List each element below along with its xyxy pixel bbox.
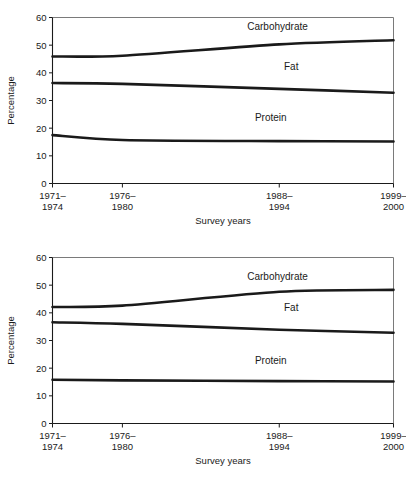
- y-tick-label: 50: [36, 40, 47, 51]
- series-label-carbohydrate: Carbohydrate: [247, 271, 308, 282]
- y-tick-label: 10: [36, 390, 47, 401]
- x-tick-label: 1974: [42, 441, 63, 452]
- plot-frame: [53, 258, 394, 424]
- x-tick-label: 1999–: [380, 430, 406, 441]
- series-label-fat: Fat: [284, 302, 299, 313]
- x-tick-label: 1971–: [39, 430, 66, 441]
- x-tick-label: 1994: [269, 201, 290, 212]
- x-tick-label: 2000: [383, 201, 404, 212]
- series-line-fat: [53, 83, 394, 93]
- series-line-protein: [53, 135, 394, 141]
- y-axis-title: Percentage: [5, 76, 16, 125]
- x-tick-label: 1988–: [266, 190, 293, 201]
- x-tick-label: 1976–: [109, 190, 136, 201]
- x-axis-title: Survey years: [195, 455, 251, 466]
- series-line-fat: [53, 322, 394, 333]
- y-tick-label: 0: [41, 178, 46, 189]
- y-tick-label: 20: [36, 123, 47, 134]
- y-tick-label: 60: [36, 252, 47, 263]
- series-line-carbohydrate: [53, 40, 394, 56]
- line-chart-top: 01020304050601971–19741976–19801988–1994…: [0, 0, 406, 240]
- chart-panel-bottom: 01020304050601971–19741976–19801988–1994…: [0, 240, 406, 480]
- x-tick-label: 1988–: [266, 430, 293, 441]
- y-tick-label: 30: [36, 335, 47, 346]
- y-tick-label: 40: [36, 67, 47, 78]
- y-tick-label: 30: [36, 95, 47, 106]
- chart-panel-top: 01020304050601971–19741976–19801988–1994…: [0, 0, 406, 240]
- series-label-protein: Protein: [255, 355, 287, 366]
- y-axis-title: Percentage: [5, 316, 16, 365]
- y-tick-label: 60: [36, 12, 47, 23]
- x-tick-label: 1980: [112, 201, 133, 212]
- x-tick-label: 1976–: [109, 430, 136, 441]
- x-tick-label: 1994: [269, 441, 290, 452]
- series-label-protein: Protein: [255, 112, 287, 123]
- y-tick-label: 0: [41, 418, 46, 429]
- series-label-carbohydrate: Carbohydrate: [247, 21, 308, 32]
- x-tick-label: 1999–: [380, 190, 406, 201]
- x-tick-label: 1971–: [39, 190, 66, 201]
- series-line-carbohydrate: [53, 290, 394, 307]
- x-axis-title: Survey years: [195, 215, 251, 226]
- y-tick-label: 50: [36, 280, 47, 291]
- series-line-protein: [53, 380, 394, 382]
- line-chart-bottom: 01020304050601971–19741976–19801988–1994…: [0, 240, 406, 480]
- series-label-fat: Fat: [284, 61, 299, 72]
- x-tick-label: 1980: [112, 441, 133, 452]
- y-tick-label: 10: [36, 150, 47, 161]
- x-tick-label: 2000: [383, 441, 404, 452]
- y-tick-label: 20: [36, 363, 47, 374]
- y-tick-label: 40: [36, 307, 47, 318]
- x-tick-label: 1974: [42, 201, 63, 212]
